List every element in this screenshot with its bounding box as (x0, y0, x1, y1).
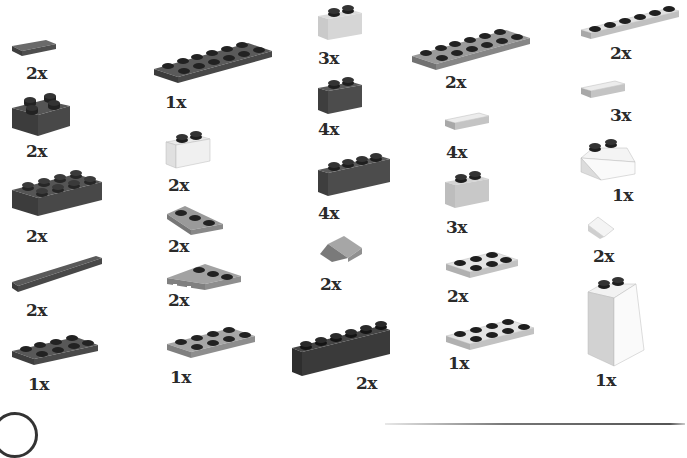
part-brick-1x2-lightgray (316, 4, 366, 42)
part-brick-1x4-dark (316, 148, 394, 198)
slope-1x2-icon (318, 234, 366, 264)
brick-2x4-icon (10, 166, 104, 218)
qty-label: 4x (318, 121, 339, 138)
qty-label: 2x (168, 292, 189, 309)
qty-label: 2x (447, 288, 468, 305)
part-brick-1x2-white (164, 130, 214, 170)
plate-2x4-icon (165, 318, 257, 360)
tile-1x2-icon (443, 110, 491, 134)
brick-1x2-icon (316, 76, 366, 116)
part-tile-1x2-lightgray-2 (579, 78, 627, 102)
part-plate-2x6-medium (410, 20, 532, 72)
part-slope-1x1-white (586, 215, 618, 241)
qty-label: 3x (610, 107, 631, 124)
plate-2x4-icon (444, 310, 536, 352)
footer-divider (385, 423, 685, 425)
part-slope-2x2-white (579, 138, 637, 184)
part-brick-1x2-lightgray-2 (443, 170, 493, 210)
slope-2x2-icon (579, 138, 637, 184)
brick-1x2-icon (316, 4, 366, 42)
slope-2x2x3-icon (586, 272, 646, 368)
qty-label: 1x (170, 369, 191, 386)
qty-label: 1x (595, 372, 616, 389)
brick-1x2-icon (443, 170, 493, 210)
plate-2x6-icon (152, 33, 274, 85)
qty-label: 2x (320, 276, 341, 293)
step-marker-circle (0, 412, 38, 458)
part-plate-2x4-dark (10, 327, 100, 367)
qty-label: 2x (26, 228, 47, 245)
part-plate-1x6-lightgray (579, 2, 681, 44)
qty-label: 2x (26, 65, 47, 82)
qty-label: 3x (318, 50, 339, 67)
part-tile-1x2-dark (10, 38, 58, 58)
qty-label: 2x (26, 143, 47, 160)
brick-1x4-icon (316, 148, 394, 198)
qty-label: 4x (318, 205, 339, 222)
part-tile-1x6-dark (10, 252, 104, 296)
qty-label: 1x (28, 376, 49, 393)
part-plate-2x6-dark (152, 33, 274, 85)
part-brick-1x2-dark (316, 76, 366, 116)
qty-label: 3x (446, 219, 467, 236)
qty-label: 2x (445, 74, 466, 91)
part-tile-1x2-lightgray (443, 110, 491, 134)
part-slope-1x2-medium (318, 234, 366, 264)
qty-label: 1x (448, 355, 469, 372)
part-plate-2x4-medium (165, 318, 257, 360)
part-brick-2x2-dark (10, 90, 72, 138)
plate-1x6-icon (579, 2, 681, 44)
wedge-plate-icon (165, 202, 227, 236)
qty-label: 2x (168, 177, 189, 194)
part-brick-1x6-dark (290, 320, 394, 378)
qty-label: 2x (610, 45, 631, 62)
tile-1x6-icon (10, 252, 104, 296)
qty-label: 2x (168, 238, 189, 255)
brick-2x2-icon (10, 90, 72, 138)
plate-2x6-icon (410, 20, 532, 72)
qty-label: 1x (165, 94, 186, 111)
qty-label: 4x (446, 144, 467, 161)
qty-label: 2x (593, 248, 614, 265)
part-plate-2x4-lightgray (444, 310, 536, 352)
qty-label: 1x (612, 187, 633, 204)
plate-2x4-icon (10, 327, 100, 367)
brick-1x2-icon (164, 130, 214, 170)
brick-1x6-icon (290, 320, 394, 378)
qty-label: 2x (356, 375, 377, 392)
slope-1x1-icon (586, 215, 618, 241)
part-plate-2x3-lightgray (444, 244, 520, 280)
part-slope-2x2x3-white (586, 272, 646, 368)
part-brick-2x4-dark (10, 166, 104, 218)
tile-1x2-icon (10, 38, 58, 58)
part-wedge-plate-right (165, 202, 227, 236)
tile-1x2-icon (579, 78, 627, 102)
plate-2x3-icon (444, 244, 520, 280)
qty-label: 2x (26, 302, 47, 319)
